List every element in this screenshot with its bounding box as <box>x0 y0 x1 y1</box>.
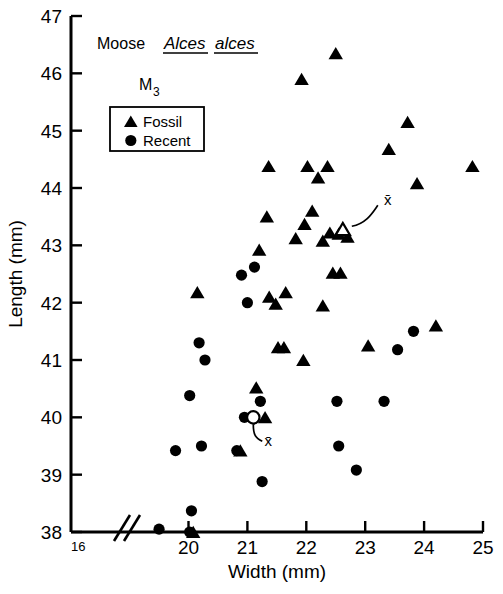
fossil-data-point <box>190 286 204 298</box>
y-tick-label: 38 <box>41 522 62 543</box>
tooth-label-subscript: 3 <box>153 85 160 99</box>
recent-mean-label: x̄ <box>265 432 273 449</box>
fossil-data-point <box>300 160 314 172</box>
x-tick-labels: 16202122232425 <box>71 537 494 558</box>
fossil-mean-leader-line <box>352 205 378 226</box>
recent-data-point <box>186 505 197 516</box>
x-tick-label: 22 <box>296 537 317 558</box>
fossil-data-point <box>261 160 275 172</box>
fossil-data-point <box>410 177 424 189</box>
fossil-data-point <box>278 286 292 298</box>
recent-data-point <box>257 476 268 487</box>
fossil-data-point <box>296 354 310 366</box>
recent-mean-leader-line <box>253 424 262 441</box>
fossil-data-point <box>316 299 330 311</box>
y-axis-title: Length (mm) <box>5 220 26 328</box>
recent-data-point <box>378 396 389 407</box>
figure-header: Moose Alces alces M 3 <box>97 34 258 99</box>
x-tick-label: 20 <box>178 537 199 558</box>
recent-mean-open-circle-icon <box>247 411 259 423</box>
fossil-data-point <box>382 143 396 155</box>
recent-data-point <box>199 354 210 365</box>
recent-data-point <box>331 396 342 407</box>
x-tick-label: 16 <box>71 539 85 554</box>
recent-data-point <box>236 270 247 281</box>
x-tick-label: 21 <box>237 537 258 558</box>
y-tick-label: 42 <box>41 293 62 314</box>
header-common-name: Moose <box>97 35 145 52</box>
legend: Fossil Recent <box>110 107 204 151</box>
fossil-data-point <box>429 319 443 331</box>
x-tick-label: 25 <box>472 537 493 558</box>
recent-data-point <box>184 390 195 401</box>
recent-data-point <box>170 445 181 456</box>
recent-data-point <box>249 262 260 273</box>
fossil-data-point <box>311 171 325 183</box>
fossil-data-point <box>305 205 319 217</box>
fossil-data-point <box>465 160 479 172</box>
recent-data-point <box>333 440 344 451</box>
y-tick-label: 43 <box>41 235 62 256</box>
recent-data-point <box>153 524 164 535</box>
y-tick-label: 47 <box>41 6 62 27</box>
recent-data-point <box>196 440 207 451</box>
fossil-data-point <box>320 160 334 172</box>
fossil-data-point <box>249 381 263 393</box>
x-axis-break-icon <box>114 515 140 541</box>
legend-circle-filled-icon <box>125 135 136 146</box>
recent-mean-group: x̄ <box>247 411 272 449</box>
fossil-data-point <box>260 210 274 222</box>
fossil-data-point <box>294 73 308 85</box>
y-tick-labels: 38394041424344454647 <box>41 6 63 543</box>
x-tick-label: 23 <box>355 537 376 558</box>
y-tick-label: 40 <box>41 407 62 428</box>
fossil-mean-group: x̄ <box>336 191 392 235</box>
recent-data-point <box>255 396 266 407</box>
y-tick-marks <box>71 16 82 532</box>
scatter-plot: 38394041424344454647 16202122232425 x̄ x… <box>0 0 503 594</box>
recent-data-point <box>242 297 253 308</box>
fossil-data-point <box>252 244 266 256</box>
tooth-label: M <box>139 76 152 93</box>
x-tick-label: 24 <box>414 537 436 558</box>
recent-data-point <box>392 344 403 355</box>
x-axis-title: Width (mm) <box>228 561 326 582</box>
y-tick-label: 39 <box>41 465 62 486</box>
y-tick-label: 46 <box>41 63 62 84</box>
recent-data-point <box>194 337 205 348</box>
fossil-data-point <box>288 232 302 244</box>
y-tick-label: 41 <box>41 350 62 371</box>
recent-data-point <box>351 464 362 475</box>
legend-label-fossil: Fossil <box>143 113 182 130</box>
figure-root: 38394041424344454647 16202122232425 x̄ x… <box>0 0 503 594</box>
y-tick-label: 44 <box>41 178 63 199</box>
axis-frame <box>71 16 483 532</box>
fossil-data-point <box>297 218 311 230</box>
header-genus: Alces <box>163 34 206 53</box>
fossil-mean-label: x̄ <box>384 191 392 208</box>
y-tick-label: 45 <box>41 121 62 142</box>
fossil-mean-open-triangle-icon <box>336 223 350 235</box>
fossil-data-point <box>400 116 414 128</box>
fossil-data-point <box>329 47 343 59</box>
series-recent-points <box>0 262 419 538</box>
recent-data-point <box>408 326 419 337</box>
legend-label-recent: Recent <box>143 132 191 149</box>
header-species: alces <box>215 34 255 53</box>
series-fossil-points <box>186 47 480 538</box>
fossil-data-point <box>361 339 375 351</box>
x-tick-marks <box>189 521 484 532</box>
